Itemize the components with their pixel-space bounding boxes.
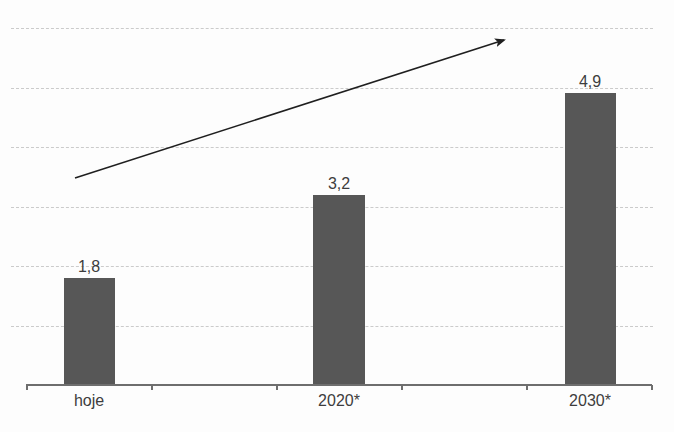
x-axis-tick bbox=[401, 385, 403, 390]
x-axis-label-hoje: hoje bbox=[44, 392, 134, 410]
x-axis-tick bbox=[151, 385, 153, 390]
x-axis-tick bbox=[276, 385, 278, 390]
bar-value-label: 4,9 bbox=[555, 73, 625, 91]
x-axis-tick bbox=[526, 385, 528, 390]
x-axis-tick bbox=[651, 385, 653, 390]
bar-2030 bbox=[565, 93, 616, 385]
gridline bbox=[11, 28, 653, 29]
scanned-bar-chart-figure: 1,8 3,2 4,9 hoje 2020* 2030* bbox=[0, 0, 674, 432]
gridline bbox=[11, 147, 653, 148]
x-axis-tick bbox=[26, 385, 28, 390]
x-axis-label-2020: 2020* bbox=[294, 392, 384, 410]
x-axis-label-2030: 2030* bbox=[545, 392, 635, 410]
bar-value-label: 1,8 bbox=[54, 258, 124, 276]
x-axis-line bbox=[26, 384, 652, 386]
bar-value-label: 3,2 bbox=[304, 175, 374, 193]
bar-hoje bbox=[64, 278, 115, 385]
bar-2020 bbox=[313, 195, 365, 385]
